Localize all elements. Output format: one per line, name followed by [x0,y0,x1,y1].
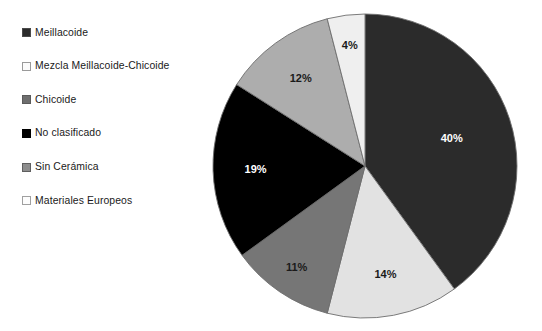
chart-legend: Meillacoide Mezcla Meillacoide-Chicoide … [22,16,212,218]
legend-item-sin-ceramica[interactable]: Sin Cerámica [22,150,212,184]
pie-chart-figure: Meillacoide Mezcla Meillacoide-Chicoide … [0,0,542,331]
legend-swatch-chicoide [22,95,31,104]
pie-slice-label: 40% [441,132,463,144]
legend-label-meillacoide: Meillacoide [35,28,88,38]
legend-label-sin-ceramica: Sin Cerámica [35,162,99,172]
legend-item-no-clasificado[interactable]: No clasificado [22,117,212,151]
pie-slice-label: 19% [245,163,267,175]
legend-swatch-no-clasificado [22,129,31,138]
legend-label-no-clasificado: No clasificado [35,128,101,138]
legend-label-materiales-europeos: Materiales Europeos [35,196,132,206]
legend-swatch-sin-ceramica [22,163,31,172]
legend-label-mezcla-meillacoide-chicoide: Mezcla Meillacoide-Chicoide [35,61,169,71]
legend-swatch-mezcla-meillacoide-chicoide [22,62,31,71]
legend-item-materiales-europeos[interactable]: Materiales Europeos [22,184,212,218]
pie-slice-label: 12% [290,72,312,84]
legend-label-chicoide: Chicoide [35,95,76,105]
legend-item-chicoide[interactable]: Chicoide [22,83,212,117]
pie-chart: 40%14%11%19%12%4% [210,11,520,321]
legend-swatch-materiales-europeos [22,196,31,205]
pie-slice-label: 4% [342,39,358,51]
pie-slice-label: 14% [374,268,396,280]
legend-item-mezcla-meillacoide-chicoide[interactable]: Mezcla Meillacoide-Chicoide [22,50,212,84]
pie-slice-label: 11% [286,261,308,273]
legend-item-meillacoide[interactable]: Meillacoide [22,16,212,50]
pie-chart-svg: 40%14%11%19%12%4% [210,11,520,321]
legend-swatch-meillacoide [22,28,31,37]
